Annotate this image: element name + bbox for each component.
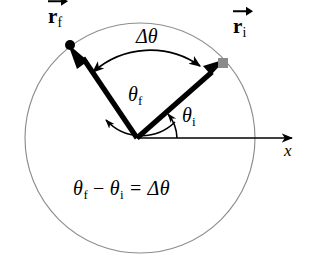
point-initial-marker: [218, 58, 228, 68]
r-initial-symbol: r: [233, 16, 242, 37]
eq-equals: =: [130, 177, 142, 199]
label-delta-theta: Δθ: [136, 26, 158, 46]
label-theta-final: θf: [128, 84, 142, 107]
label-r-final: r f: [48, 6, 62, 30]
label-theta-initial: θi: [182, 105, 196, 128]
r-final-symbol: r: [48, 6, 57, 27]
label-x-axis: x: [284, 142, 292, 159]
theta-final-subscript: f: [138, 93, 142, 108]
point-final-marker: [65, 40, 75, 50]
eq-delta-theta: Δθ: [148, 177, 170, 199]
theta-initial-subscript: i: [192, 114, 196, 129]
eq-minus: −: [93, 177, 105, 199]
r-final-subscript: f: [58, 15, 63, 30]
theta-final-symbol: θ: [128, 83, 138, 105]
r-initial-subscript: i: [243, 25, 247, 40]
figure-canvas: r f r i Δθ θf θi x θf−θi=Δθ: [0, 0, 310, 259]
theta-initial-symbol: θ: [182, 104, 192, 126]
equation-theta-difference: θf−θi=Δθ: [73, 178, 170, 201]
eq-sub-i: i: [120, 187, 124, 202]
eq-theta-i: θ: [110, 177, 120, 199]
label-r-initial: r i: [233, 16, 246, 40]
eq-theta-f: θ: [73, 177, 83, 199]
eq-sub-f: f: [83, 187, 88, 202]
